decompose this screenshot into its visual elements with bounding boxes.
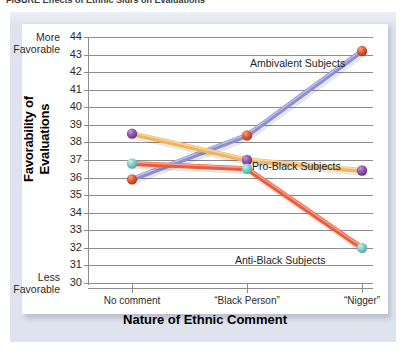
chart-panel: 444342414039383736353433323130 No commen…: [22, 24, 388, 314]
x-axis-title: Nature of Ethnic Comment: [22, 312, 388, 327]
data-point-marker: [127, 128, 137, 138]
series-line-highlight: [132, 162, 362, 246]
series-line: [132, 164, 362, 248]
plot-area: 444342414039383736353433323130 No commen…: [22, 24, 388, 314]
data-point-marker: [242, 164, 252, 174]
figure-caption-text: FIGURE Effects of Ethnic Slurs on Evalua…: [6, 0, 205, 5]
data-point-marker: [242, 130, 252, 140]
chart-figure: FIGURE Effects of Ethnic Slurs on Evalua…: [0, 0, 406, 354]
figure-caption-strip: FIGURE Effects of Ethnic Slurs on Evalua…: [0, 0, 406, 9]
series-annotation-label: Anti-Black Subjects: [235, 254, 325, 266]
series-line-shadow: [134, 166, 364, 250]
data-point-marker: [357, 243, 367, 253]
data-point-marker: [357, 165, 367, 175]
data-point-marker: [127, 158, 137, 168]
data-point-marker: [127, 174, 137, 184]
series-annotation-label: Pro-Black Subjects: [252, 160, 341, 172]
data-point-marker: [357, 46, 367, 56]
figure-outer-mat-sheen: [10, 12, 396, 24]
series-annotation-label: Ambivalent Subjects: [250, 57, 345, 69]
